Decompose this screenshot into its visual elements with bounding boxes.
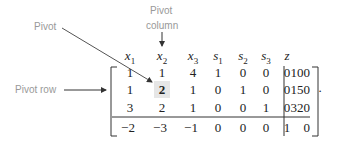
cell-r0-x2: 1 <box>152 65 172 81</box>
pivot-element: 2 <box>152 82 172 98</box>
cell-r1-rhs: 150 <box>282 82 310 98</box>
cell-r2-s3: 1 <box>256 100 276 116</box>
header-x3: x3 <box>183 48 203 66</box>
cell-r0-x3: 4 <box>183 65 203 81</box>
cell-r2-x3: 1 <box>183 100 203 116</box>
cell-r3-rhs: 0 <box>282 120 310 136</box>
cell-r0-s2: 0 <box>233 65 253 81</box>
cell-r1-s2: 1 <box>233 82 253 98</box>
cell-r3-s1: 0 <box>208 120 228 136</box>
cell-r2-s2: 0 <box>233 100 253 116</box>
cell-r2-x2: 2 <box>152 100 172 116</box>
right-bracket <box>312 67 318 136</box>
cell-r0-x1: 1 <box>120 65 140 81</box>
header-s2: s2 <box>233 48 253 66</box>
cell-r3-x2: −3 <box>150 120 170 136</box>
header-x2: x2 <box>152 48 172 66</box>
cell-r3-s2: 0 <box>233 120 253 136</box>
cell-r0-rhs: 100 <box>282 65 310 81</box>
left-bracket <box>111 67 117 136</box>
header-s1: s1 <box>208 48 228 66</box>
trailing-period: . <box>316 80 324 96</box>
cell-r3-x3: −1 <box>181 120 201 136</box>
cell-r3-x1: −2 <box>118 120 138 136</box>
header-z: z <box>277 48 297 66</box>
cell-r1-x3: 1 <box>183 82 203 98</box>
cell-r0-s3: 0 <box>256 65 276 81</box>
cell-r2-rhs: 320 <box>282 100 310 116</box>
cell-r3-s3: 0 <box>256 120 276 136</box>
header-x1: x1 <box>120 48 140 66</box>
cell-r1-s3: 0 <box>256 82 276 98</box>
cell-r2-s1: 0 <box>208 100 228 116</box>
cell-r1-s1: 0 <box>208 82 228 98</box>
cell-r0-s1: 1 <box>208 65 228 81</box>
cell-r2-x1: 3 <box>120 100 140 116</box>
header-s3: s3 <box>256 48 276 66</box>
cell-r1-x1: 1 <box>120 82 140 98</box>
